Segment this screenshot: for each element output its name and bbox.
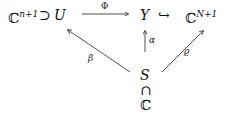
label-alpha: α (149, 36, 155, 45)
beta-arrow (68, 30, 130, 72)
label-rho: ϱ (184, 47, 189, 56)
node-y: Y (140, 8, 149, 22)
supset-symbol: ⊃ (39, 8, 51, 22)
hook-arrow: ↪ (158, 8, 170, 22)
node-c: ℂ (140, 98, 151, 112)
rho-arrow (162, 31, 203, 72)
node-c-N-plus-1: ℂN+1 (185, 7, 217, 25)
node-s: S (140, 68, 150, 82)
cap-symbol: ∩ (140, 83, 152, 97)
node-c-n-plus-1: ℂn+1 (8, 7, 38, 25)
node-u: U (54, 8, 66, 22)
label-beta: β (88, 54, 93, 63)
label-phi: Φ (101, 2, 108, 11)
